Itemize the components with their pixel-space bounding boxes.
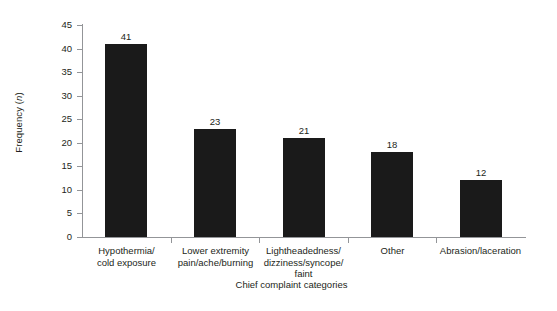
x-axis-category-label: Other [348,245,437,257]
x-axis-category-label: Hypothermia/cold exposure [82,245,171,268]
x-axis-tick [171,238,172,243]
x-axis-category-label-line: dizziness/syncope/ [259,257,348,269]
x-axis-tick [436,238,437,243]
x-axis-category-label-line: Hypothermia/ [82,245,171,257]
bar [460,180,502,237]
bar-value-label: 18 [362,139,422,150]
y-axis-tick [77,213,82,214]
y-axis-tick-label: 40 [38,44,72,54]
bar-value-label: 12 [451,167,511,178]
bar-value-label: 21 [274,125,334,136]
y-axis-tick [77,166,82,167]
x-axis-category-label-line: Lightheadedness/ [259,245,348,257]
y-axis-title: Frequency (n) [13,63,24,183]
bar-chart: Frequency (n) 051015202530354045 4123211… [0,0,557,311]
y-axis-tick-label: 10 [38,185,72,195]
y-axis-line [82,24,83,238]
x-axis-category-label: Lower extremitypain/ache/burning [171,245,260,268]
y-axis-tick [77,96,82,97]
x-axis-tick [348,238,349,243]
y-axis-tick [77,143,82,144]
x-axis-category-label-line: cold exposure [82,257,171,269]
x-axis-category-label-line: pain/ache/burning [171,257,260,269]
bar [283,138,325,237]
y-axis-tick [77,119,82,120]
y-axis-tick [77,190,82,191]
x-axis-line [82,237,526,238]
y-axis-tick [77,25,82,26]
x-axis-category-label-line: Lower extremity [171,245,260,257]
bar [371,152,413,237]
y-axis-tick-label: 5 [38,208,72,218]
y-axis-tick-label: 30 [38,91,72,101]
y-axis-tick-label: 25 [38,114,72,124]
y-axis-tick [77,237,82,238]
y-axis-tick-label: 35 [38,67,72,77]
y-axis-tick [77,72,82,73]
x-axis-category-label-line: Other [348,245,437,257]
x-axis-tick [259,238,260,243]
bar-value-label: 41 [96,31,156,42]
y-axis-tick-label: 15 [38,161,72,171]
y-axis-tick-label: 0 [38,232,72,242]
x-axis-category-label: Lightheadedness/dizziness/syncope/faint [259,245,348,280]
x-axis-category-label: Abrasion/laceration [436,245,525,257]
y-axis-tick-label: 20 [38,138,72,148]
y-axis-tick-label: 45 [38,20,72,30]
bar [105,44,147,237]
x-axis-category-label-line: Abrasion/laceration [436,245,525,257]
y-axis-tick [77,49,82,50]
bar [194,129,236,237]
y-axis-title-text: Frequency [13,107,24,153]
bar-value-label: 23 [185,116,245,127]
x-axis-title: Chief complaint categories [0,279,557,290]
y-axis-title-italic: n [13,96,24,101]
